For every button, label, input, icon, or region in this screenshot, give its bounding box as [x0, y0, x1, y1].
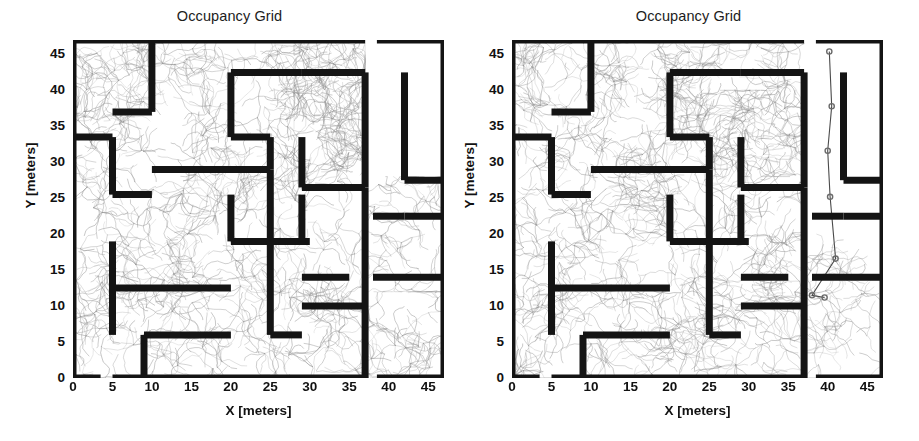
x-axis-label-left: X [meters]	[73, 403, 444, 418]
y-tick-label: 25	[50, 191, 65, 205]
x-tick-label: 30	[741, 380, 756, 394]
x-tick-label: 25	[263, 380, 278, 394]
panel-occupancy-grid-right: Occupancy Grid 051015202530354045 Y [met…	[459, 0, 918, 441]
y-axis-ticks-left: 051015202530354045	[37, 40, 69, 378]
x-tick-label: 15	[623, 380, 638, 394]
y-tick-label: 10	[489, 299, 504, 313]
occupied-walls-layer	[73, 40, 444, 378]
y-tick-label: 5	[496, 335, 504, 349]
x-tick-label: 5	[548, 380, 556, 394]
plot-wrap-left	[73, 40, 444, 378]
y-tick-label: 25	[489, 191, 504, 205]
x-tick-label: 10	[583, 380, 598, 394]
scan-noise-layer	[512, 40, 883, 378]
x-tick-label: 40	[820, 380, 835, 394]
y-tick-label: 35	[50, 120, 65, 134]
x-tick-label: 20	[662, 380, 677, 394]
page-title: Occupancy Grid	[0, 8, 459, 24]
y-tick-label: 45	[489, 48, 504, 62]
x-tick-label: 45	[421, 380, 436, 394]
x-tick-label: 40	[381, 380, 396, 394]
occupancy-grid-canvas	[512, 40, 883, 378]
x-tick-label: 20	[223, 380, 238, 394]
y-tick-label: 40	[489, 84, 504, 98]
x-tick-label: 5	[109, 380, 117, 394]
plot-area-left	[73, 40, 444, 378]
x-tick-label: 15	[184, 380, 199, 394]
y-tick-label: 10	[50, 299, 65, 313]
x-axis-ticks-left: 051015202530354045	[73, 380, 444, 400]
x-tick-label: 30	[302, 380, 317, 394]
y-axis-label-right: Y [meters]	[462, 116, 477, 236]
y-axis-ticks-right: 051015202530354045	[476, 40, 508, 378]
y-tick-label: 20	[489, 227, 504, 241]
y-tick-label: 30	[489, 156, 504, 170]
y-tick-label: 30	[50, 156, 65, 170]
y-tick-label: 0	[496, 371, 504, 385]
y-tick-label: 45	[50, 48, 65, 62]
y-tick-label: 15	[50, 263, 65, 277]
figure-two-panel-occupancy-grids: Occupancy Grid 051015202530354045 Y [met…	[0, 0, 919, 441]
y-tick-label: 5	[57, 335, 65, 349]
x-axis-ticks-right: 051015202530354045	[512, 380, 883, 400]
graph-edge-path	[812, 52, 836, 298]
x-tick-label: 0	[508, 380, 516, 394]
plot-area-right	[512, 40, 883, 378]
occupancy-grid-canvas	[73, 40, 444, 378]
topological-graph-layer	[809, 49, 838, 300]
page-title-right: Occupancy Grid	[459, 8, 918, 24]
y-tick-label: 15	[489, 263, 504, 277]
plot-wrap-right	[512, 40, 883, 378]
panel-occupancy-grid-left: Occupancy Grid 051015202530354045 Y [met…	[0, 0, 459, 441]
scan-noise-layer	[73, 40, 444, 378]
x-tick-label: 35	[781, 380, 796, 394]
y-tick-label: 20	[50, 227, 65, 241]
x-tick-label: 45	[860, 380, 875, 394]
y-tick-label: 0	[57, 371, 65, 385]
x-axis-label-right: X [meters]	[512, 403, 883, 418]
x-tick-label: 35	[342, 380, 357, 394]
y-axis-label-left: Y [meters]	[23, 116, 38, 236]
y-tick-label: 40	[50, 84, 65, 98]
occupied-walls-layer	[512, 40, 883, 378]
x-tick-label: 25	[702, 380, 717, 394]
x-tick-label: 10	[144, 380, 159, 394]
x-tick-label: 0	[69, 380, 77, 394]
y-tick-label: 35	[489, 120, 504, 134]
